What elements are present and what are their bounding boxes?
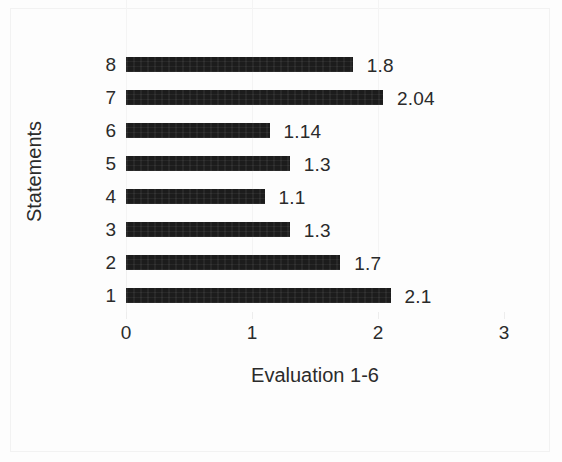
bar-statement-8[interactable] [126, 57, 353, 72]
bar-chart: 8 7 6 5 4 3 2 1 [0, 0, 562, 462]
bar-value-label: 2.04 [397, 88, 435, 110]
bar-value-label: 1.14 [284, 121, 322, 143]
y-tick-text: 5 [86, 147, 116, 180]
y-tick-text: 8 [86, 48, 116, 81]
x-tick-mark-0 [126, 312, 127, 319]
y-tick-label-5: 5 [78, 147, 116, 180]
x-tick-label-1: 1 [232, 322, 272, 344]
y-tick-label-4: 4 [78, 180, 116, 213]
y-axis-tick-labels: 8 7 6 5 4 3 2 1 [78, 48, 116, 312]
bar-statement-7[interactable] [126, 90, 383, 105]
x-tick-mark-2 [378, 312, 379, 319]
y-tick-text: 7 [86, 81, 116, 114]
bar-value-label: 2.1 [405, 286, 432, 308]
x-tick-label-3: 3 [484, 322, 524, 344]
y-tick-text: 4 [86, 180, 116, 213]
bar-value-label: 1.7 [354, 253, 381, 275]
y-tick-label-3: 3 [78, 213, 116, 246]
y-tick-text: 1 [86, 279, 116, 312]
bar-value-label: 1.3 [304, 220, 331, 242]
y-axis-title: Statements [23, 92, 46, 252]
plot-area: 1.8 2.04 1.14 1.3 1.1 1.3 [126, 48, 504, 312]
bar-value-label: 1.3 [304, 154, 331, 176]
bar-statement-1[interactable] [126, 288, 391, 303]
y-tick-label-1: 1 [78, 279, 116, 312]
bar-value-label: 1.8 [367, 55, 394, 77]
y-tick-text: 6 [86, 114, 116, 147]
x-tick-label-2: 2 [358, 322, 398, 344]
x-tick-mark-1 [252, 312, 253, 319]
bar-statement-2[interactable] [126, 255, 340, 270]
y-tick-label-6: 6 [78, 114, 116, 147]
bar-statement-4[interactable] [126, 189, 265, 204]
chart-screenshot: 8 7 6 5 4 3 2 1 [0, 0, 562, 462]
bar-statement-3[interactable] [126, 222, 290, 237]
y-tick-text: 2 [86, 246, 116, 279]
bar-value-label: 1.1 [279, 187, 306, 209]
bar-statement-5[interactable] [126, 156, 290, 171]
x-tick-label-0: 0 [106, 322, 146, 344]
y-tick-text: 3 [86, 213, 116, 246]
x-axis-title: Evaluation 1-6 [126, 364, 504, 387]
x-tick-mark-3 [504, 312, 505, 319]
y-tick-label-7: 7 [78, 81, 116, 114]
x-axis-tick-labels: 0 1 2 3 [0, 322, 562, 350]
y-tick-label-8: 8 [78, 48, 116, 81]
bar-statement-6[interactable] [126, 123, 270, 138]
y-tick-label-2: 2 [78, 246, 116, 279]
